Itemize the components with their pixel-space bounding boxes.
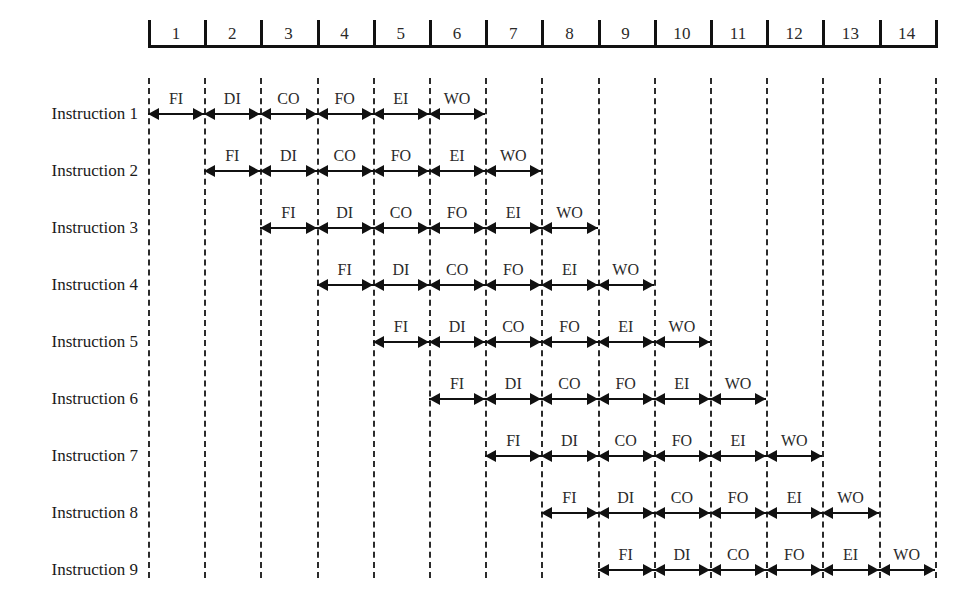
cycle-number-7: 7 [485, 25, 541, 42]
stage-di-row-6: DI [485, 383, 541, 405]
stage-co-row-6: CO [541, 383, 597, 405]
stage-fo-row-7: FO [654, 440, 710, 462]
stage-wo-row-5: WO [654, 326, 710, 348]
arrow-head-right-icon [362, 165, 373, 177]
arrow-head-left-icon [766, 564, 777, 576]
arrow-head-right-icon [474, 279, 485, 291]
stage-co-row-1: CO [260, 98, 316, 120]
stage-di-row-4: DI [373, 269, 429, 291]
arrow-head-left-icon [654, 393, 665, 405]
stage-fi-row-9: FI [598, 554, 654, 576]
stage-label: CO [429, 262, 485, 278]
stage-label: WO [485, 148, 541, 164]
stage-fo-row-3: FO [429, 212, 485, 234]
arrow-head-right-icon [643, 450, 654, 462]
stage-fo-row-5: FO [541, 326, 597, 348]
arrow-head-right-icon [418, 336, 429, 348]
arrow-head-right-icon [643, 507, 654, 519]
cycle-number-6: 6 [429, 25, 485, 42]
stage-ei-row-2: EI [429, 155, 485, 177]
arrow-head-right-icon [474, 108, 485, 120]
cycle-number-2: 2 [204, 25, 260, 42]
stage-label: EI [485, 205, 541, 221]
grid-line-cycle-14 [935, 78, 937, 578]
stage-ei-row-4: EI [541, 269, 597, 291]
stage-label: FO [429, 205, 485, 221]
stage-wo-row-2: WO [485, 155, 541, 177]
arrow-head-right-icon [474, 165, 485, 177]
cycle-number-11: 11 [710, 25, 766, 42]
cycle-number-5: 5 [373, 25, 429, 42]
arrow-head-right-icon [643, 564, 654, 576]
arrow-head-right-icon [587, 336, 598, 348]
stage-label: CO [541, 376, 597, 392]
arrow-head-left-icon [710, 564, 721, 576]
stage-label: CO [654, 490, 710, 506]
stage-label: FO [541, 319, 597, 335]
arrow-head-left-icon [541, 507, 552, 519]
arrow-head-left-icon [373, 336, 384, 348]
arrow-head-left-icon [654, 450, 665, 462]
arrow-head-left-icon [541, 450, 552, 462]
arrow-head-right-icon [530, 279, 541, 291]
stage-label: DI [541, 433, 597, 449]
arrow-head-right-icon [811, 507, 822, 519]
stage-co-row-9: CO [710, 554, 766, 576]
cycle-number-8: 8 [541, 25, 597, 42]
stage-wo-row-9: WO [879, 554, 935, 576]
stage-fi-row-3: FI [260, 212, 316, 234]
arrow-head-left-icon [598, 393, 609, 405]
stage-fo-row-8: FO [710, 497, 766, 519]
arrow-head-left-icon [260, 108, 271, 120]
arrow-head-left-icon [429, 108, 440, 120]
grid-line-cycle-13 [879, 78, 881, 578]
stage-ei-row-7: EI [710, 440, 766, 462]
arrow-head-left-icon [822, 507, 833, 519]
arrow-head-left-icon [317, 279, 328, 291]
stage-co-row-2: CO [317, 155, 373, 177]
stage-label: EI [710, 433, 766, 449]
arrow-head-left-icon [598, 336, 609, 348]
stage-label: FI [148, 91, 204, 107]
pipeline-timing-diagram: 1234567891011121314Instruction 1FIDICOFO… [0, 0, 953, 597]
arrow-head-right-icon [362, 222, 373, 234]
arrow-head-left-icon [429, 393, 440, 405]
arrow-head-right-icon [418, 279, 429, 291]
stage-label: FI [541, 490, 597, 506]
stage-fi-row-8: FI [541, 497, 597, 519]
arrow-head-right-icon [306, 222, 317, 234]
stage-ei-row-3: EI [485, 212, 541, 234]
arrow-head-right-icon [587, 222, 598, 234]
grid-line-cycle-0 [148, 78, 150, 578]
stage-fi-row-2: FI [204, 155, 260, 177]
stage-co-row-5: CO [485, 326, 541, 348]
stage-ei-row-8: EI [766, 497, 822, 519]
stage-wo-row-8: WO [822, 497, 878, 519]
stage-label: EI [822, 547, 878, 563]
stage-label: FO [654, 433, 710, 449]
arrow-head-left-icon [204, 108, 215, 120]
cycle-number-13: 13 [822, 25, 878, 42]
cycle-number-1: 1 [148, 25, 204, 42]
arrow-head-left-icon [485, 165, 496, 177]
stage-label: CO [260, 91, 316, 107]
stage-label: FO [710, 490, 766, 506]
arrow-head-left-icon [541, 336, 552, 348]
arrow-head-right-icon [587, 450, 598, 462]
arrow-head-right-icon [755, 393, 766, 405]
arrow-head-left-icon [541, 393, 552, 405]
stage-ei-row-5: EI [598, 326, 654, 348]
stage-label: FI [317, 262, 373, 278]
stage-di-row-2: DI [260, 155, 316, 177]
stage-fo-row-2: FO [373, 155, 429, 177]
stage-ei-row-9: EI [822, 554, 878, 576]
stage-label: FI [373, 319, 429, 335]
time-ruler-tick [935, 20, 938, 45]
stage-label: WO [879, 547, 935, 563]
stage-fi-row-4: FI [317, 269, 373, 291]
arrow-head-left-icon [541, 279, 552, 291]
stage-di-row-5: DI [429, 326, 485, 348]
arrow-head-right-icon [530, 450, 541, 462]
stage-label: WO [710, 376, 766, 392]
stage-fo-row-9: FO [766, 554, 822, 576]
